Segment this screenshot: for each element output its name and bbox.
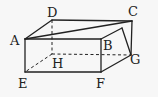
- vertex-label-g: G: [130, 52, 140, 67]
- edge-ac: [25, 21, 132, 39]
- vertex-label-f: F: [96, 76, 105, 91]
- vertex-label-b: B: [103, 38, 113, 53]
- hidden-edge-he: [25, 54, 52, 72]
- vertex-label-a: A: [9, 33, 20, 48]
- vertex-label-e: E: [18, 76, 28, 91]
- edge-pg: [122, 28, 131, 55]
- edge-fg: [101, 55, 131, 72]
- prism-diagram: ABCDEFGH: [0, 0, 158, 97]
- edge-dc: [52, 20, 132, 21]
- vertex-label-c: C: [128, 4, 138, 19]
- prism-figure: ABCDEFGH: [0, 0, 158, 97]
- edge-cg: [131, 21, 132, 55]
- vertex-label-d: D: [47, 5, 57, 20]
- hidden-edge-hg: [52, 54, 131, 55]
- vertex-label-h: H: [52, 56, 63, 71]
